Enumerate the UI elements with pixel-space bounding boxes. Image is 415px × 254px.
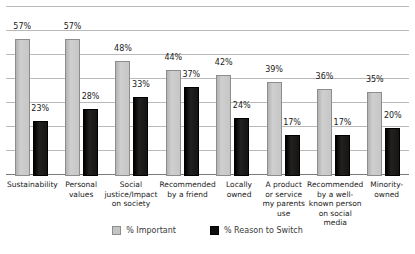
bar-wrap-important: 48%: [115, 6, 130, 176]
bar-value-label: 23%: [31, 104, 49, 113]
bar-value-label: 36%: [316, 72, 334, 81]
bar-group-sustainability: 57% 23%: [6, 6, 56, 176]
bar-important[interactable]: [15, 39, 30, 176]
bar-group-personal-values: 57% 28%: [56, 6, 106, 176]
bar-important[interactable]: [317, 89, 332, 176]
bar-important[interactable]: [216, 75, 231, 176]
bar-value-label: 24%: [233, 101, 251, 110]
legend-item-switch[interactable]: % Reason to Switch: [210, 226, 303, 235]
x-tick-line: by a friend: [159, 190, 215, 200]
x-tick-label: Minority- owned: [364, 180, 409, 228]
bar-wrap-switch: 24%: [234, 6, 249, 176]
x-tick-line: A product: [262, 180, 305, 190]
bar-wrap-important: 36%: [317, 6, 332, 176]
x-tick-line: owned: [365, 190, 408, 200]
bar-wrap-switch: 20%: [385, 6, 400, 176]
legend-item-important[interactable]: % Important: [112, 226, 176, 235]
bar-important[interactable]: [65, 39, 80, 176]
bar-value-label: 28%: [82, 92, 100, 101]
x-tick-label: Locally owned: [217, 180, 262, 228]
x-tick-line: Sustainability: [7, 180, 58, 190]
bar-switch[interactable]: [335, 135, 350, 176]
x-tick-line: on social media: [307, 209, 363, 228]
bar-value-label: 17%: [283, 118, 301, 127]
bar-group-social-media-person: 36% 17%: [308, 6, 358, 176]
bar-value-label: 48%: [114, 44, 132, 53]
bar-value-label: 33%: [132, 80, 150, 89]
x-tick-label: Recommended by a well- known person on s…: [306, 180, 364, 228]
bar-important[interactable]: [115, 61, 130, 176]
bar-chart: 57% 23% 57% 28% 48% 33%: [0, 0, 415, 254]
x-tick-line: Recommended: [159, 180, 215, 190]
bar-value-label: 37%: [182, 70, 200, 79]
x-tick-line: values: [60, 190, 103, 200]
bar-wrap-important: 44%: [166, 6, 181, 176]
x-tick-label: A product or service my parents use: [261, 180, 306, 228]
bar-switch[interactable]: [385, 128, 400, 176]
x-tick-label: Personal values: [59, 180, 104, 228]
bar-wrap-switch: 23%: [33, 6, 48, 176]
chart-legend: % Important % Reason to Switch: [0, 226, 415, 235]
x-tick-line: or service: [262, 190, 305, 200]
bar-group-parents-use: 39% 17%: [258, 6, 308, 176]
x-tick-line: on society: [104, 199, 157, 209]
bar-value-label: 35%: [366, 75, 384, 84]
bar-group-social-justice: 48% 33%: [107, 6, 157, 176]
bar-wrap-important: 57%: [65, 6, 80, 176]
bar-switch[interactable]: [83, 109, 98, 176]
x-tick-line: my parents use: [262, 199, 305, 218]
x-tick-line: Minority-: [365, 180, 408, 190]
x-tick-line: owned: [218, 190, 261, 200]
legend-label-switch: % Reason to Switch: [224, 226, 303, 235]
bar-group-minority-owned: 35% 20%: [359, 6, 409, 176]
x-tick-line: Recommended: [307, 180, 363, 190]
bar-value-label: 57%: [13, 22, 31, 31]
bar-switch[interactable]: [33, 121, 48, 176]
bar-wrap-important: 42%: [216, 6, 231, 176]
legend-swatch-switch-icon: [210, 226, 219, 235]
bar-value-label: 17%: [334, 118, 352, 127]
bar-switch[interactable]: [234, 118, 249, 176]
bar-important[interactable]: [267, 82, 282, 176]
bar-groups: 57% 23% 57% 28% 48% 33%: [6, 6, 409, 176]
bar-wrap-switch: 17%: [285, 6, 300, 176]
x-tick-line: justice/Impact: [104, 190, 157, 200]
bar-value-label: 44%: [164, 53, 182, 62]
bar-value-label: 42%: [215, 58, 233, 67]
bar-value-label: 57%: [64, 22, 82, 31]
legend-label-important: % Important: [126, 226, 176, 235]
x-tick-label: Social justice/Impact on society: [103, 180, 158, 228]
x-tick-label: Sustainability: [6, 180, 59, 228]
x-tick-line: Personal: [60, 180, 103, 190]
bar-important[interactable]: [367, 92, 382, 176]
bar-wrap-switch: 28%: [83, 6, 98, 176]
bar-switch[interactable]: [133, 97, 148, 176]
x-tick-line: Locally: [218, 180, 261, 190]
x-tick-label: Recommended by a friend: [158, 180, 216, 228]
x-tick-line: Social: [104, 180, 157, 190]
bar-switch[interactable]: [184, 87, 199, 176]
bar-value-label: 39%: [265, 65, 283, 74]
bar-wrap-important: 39%: [267, 6, 282, 176]
bar-value-label: 20%: [384, 111, 402, 120]
bar-group-locally-owned: 42% 24%: [208, 6, 258, 176]
bar-group-recommended-friend: 44% 37%: [157, 6, 207, 176]
x-axis-labels: Sustainability Personal values Social ju…: [6, 180, 409, 228]
x-tick-line: by a well-: [307, 190, 363, 200]
bar-wrap-switch: 33%: [133, 6, 148, 176]
bar-switch[interactable]: [285, 135, 300, 176]
bar-wrap-important: 57%: [15, 6, 30, 176]
bar-wrap-important: 35%: [367, 6, 382, 176]
x-tick-line: known person: [307, 199, 363, 209]
bar-wrap-switch: 37%: [184, 6, 199, 176]
legend-swatch-important-icon: [112, 226, 121, 235]
bar-wrap-switch: 17%: [335, 6, 350, 176]
bar-important[interactable]: [166, 70, 181, 176]
